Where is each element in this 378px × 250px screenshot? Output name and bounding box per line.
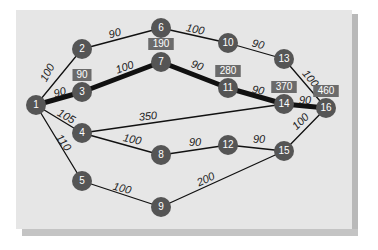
badge-value: 90	[76, 69, 88, 80]
edge-weight-label: 90	[253, 133, 266, 145]
badges-layer: 90190280370460	[73, 38, 339, 97]
earliest-time-badge-node-3: 90	[73, 69, 92, 81]
node-label: 7	[158, 56, 164, 67]
edge-4-14	[82, 104, 284, 133]
edge-weight-label: 100	[37, 61, 57, 84]
node-label: 9	[158, 201, 164, 212]
node-7: 7	[151, 52, 171, 72]
node-16: 16	[316, 98, 336, 118]
badge-value: 460	[318, 85, 335, 96]
node-14: 14	[274, 94, 294, 114]
earliest-time-badge-node-7: 190	[148, 38, 174, 50]
edge-weight-label: 90	[251, 37, 267, 52]
node-label: 8	[158, 149, 164, 160]
node-label: 13	[278, 53, 290, 64]
node-4: 4	[72, 123, 92, 143]
node-label: 5	[79, 175, 85, 186]
earliest-time-badge-node-14: 370	[271, 81, 297, 93]
node-8: 8	[151, 145, 171, 165]
edge-weight-label: 90	[190, 57, 206, 73]
node-6: 6	[151, 18, 171, 38]
node-label: 16	[320, 102, 332, 113]
edge-weight-label: 350	[138, 109, 158, 123]
edge-weight-label: 90	[189, 136, 202, 148]
badge-value: 370	[276, 81, 293, 92]
node-9: 9	[151, 197, 171, 217]
node-label: 6	[158, 22, 164, 33]
network-graph: 1009010511090100350100100100909020090909…	[0, 0, 378, 250]
node-3: 3	[72, 82, 92, 102]
node-label: 3	[79, 86, 85, 97]
node-15: 15	[274, 141, 294, 161]
node-label: 15	[278, 145, 290, 156]
node-11: 11	[218, 78, 238, 98]
node-5: 5	[72, 171, 92, 191]
node-label: 1	[33, 99, 39, 110]
earliest-time-badge-node-11: 280	[215, 65, 241, 77]
node-label: 11	[223, 82, 234, 93]
edge-9-15	[161, 151, 284, 207]
node-label: 12	[222, 139, 234, 150]
node-label: 10	[222, 37, 234, 48]
node-label: 14	[278, 98, 290, 109]
node-label: 2	[79, 43, 85, 54]
node-13: 13	[274, 49, 294, 69]
edge-weight-label: 100	[112, 180, 134, 197]
node-1: 1	[26, 95, 46, 115]
edge-weight-label: 90	[251, 83, 266, 97]
node-12: 12	[218, 135, 238, 155]
edge-weight-label: 100	[289, 110, 311, 132]
earliest-time-badge-node-16: 460	[313, 85, 339, 97]
badge-value: 190	[153, 38, 170, 49]
edge-4-8	[82, 133, 161, 155]
network-diagram: 1009010511090100350100100100909020090909…	[0, 0, 378, 250]
badge-value: 280	[220, 65, 237, 76]
node-label: 4	[79, 127, 85, 138]
edge-weight-label: 200	[194, 169, 217, 188]
node-2: 2	[72, 39, 92, 59]
node-10: 10	[218, 33, 238, 53]
edge-weight-label: 110	[54, 132, 74, 154]
edge-weight-label: 90	[299, 94, 312, 106]
